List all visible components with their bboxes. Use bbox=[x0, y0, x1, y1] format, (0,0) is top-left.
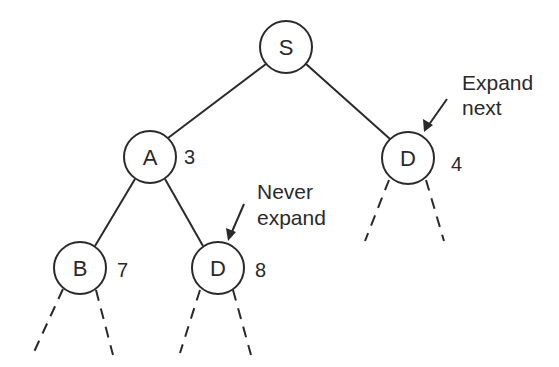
dashed-branch-b-right bbox=[96, 290, 113, 355]
annotation-expand-next-line1: Expand bbox=[462, 71, 533, 94]
node-b-label: B bbox=[73, 256, 88, 281]
node-s: S bbox=[260, 21, 312, 73]
arrow-to-d2 bbox=[231, 204, 244, 234]
arrow-to-d1 bbox=[428, 99, 447, 126]
annotation-expand-next: Expand next bbox=[423, 71, 533, 132]
search-tree-diagram: S A 3 D 4 B 7 D 8 Expand next Never expa… bbox=[0, 0, 559, 367]
arrow-head-icon bbox=[226, 228, 236, 241]
dashed-branch-d1-right bbox=[426, 180, 444, 241]
edge-s-d1 bbox=[306, 64, 390, 139]
node-b: B 7 bbox=[54, 242, 128, 294]
edge-s-a bbox=[168, 64, 266, 138]
node-d2-label: D bbox=[210, 256, 226, 281]
node-b-cost: 7 bbox=[117, 259, 128, 281]
dashed-branch-d2-right bbox=[233, 290, 251, 355]
node-d2: D 8 bbox=[192, 242, 266, 294]
edge-a-b bbox=[95, 179, 135, 246]
node-d2-cost: 8 bbox=[255, 259, 266, 281]
node-d1-label: D bbox=[400, 146, 416, 171]
dashed-branch-d2-left bbox=[180, 290, 200, 353]
node-d1-cost: 4 bbox=[451, 153, 462, 175]
dashed-branch-b-left bbox=[34, 289, 63, 352]
edge-a-d2 bbox=[165, 179, 203, 246]
dashed-branch-d1-left bbox=[365, 180, 389, 241]
annotation-expand-next-line2: next bbox=[462, 96, 502, 119]
node-a-cost: 3 bbox=[184, 146, 195, 168]
node-a-label: A bbox=[143, 145, 158, 170]
node-s-label: S bbox=[279, 35, 294, 60]
annotation-never-expand: Never expand bbox=[226, 180, 326, 241]
node-d1: D 4 bbox=[382, 132, 462, 184]
node-a: A 3 bbox=[124, 131, 195, 183]
annotation-never-expand-line1: Never bbox=[257, 180, 313, 203]
annotation-never-expand-line2: expand bbox=[257, 206, 326, 229]
